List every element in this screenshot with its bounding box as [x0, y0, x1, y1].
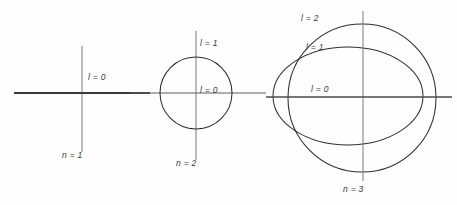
panel-n1-label-l0: l = 0 — [88, 72, 106, 82]
panel-n2-label-l0: l = 0 — [200, 85, 218, 95]
orbital-diagram-figure: l = 0 n = 1 l = 0 l = 1 n = 2 l = 0 l = … — [0, 0, 457, 205]
panel-n2-label-l1: l = 1 — [200, 38, 218, 48]
panel-n1 — [14, 46, 150, 152]
panel-n3-label-l2: l = 2 — [301, 13, 319, 23]
panel-n3-label-l1: l = 1 — [306, 42, 324, 52]
panel-n3-label-l0: l = 0 — [311, 84, 329, 94]
diagram-canvas — [0, 0, 457, 205]
panel-n2-caption: n = 2 — [176, 158, 197, 168]
panel-n3-caption: n = 3 — [343, 184, 364, 194]
panel-n2 — [130, 31, 266, 160]
panel-n3 — [266, 11, 452, 181]
panel-n1-caption: n = 1 — [62, 150, 83, 160]
